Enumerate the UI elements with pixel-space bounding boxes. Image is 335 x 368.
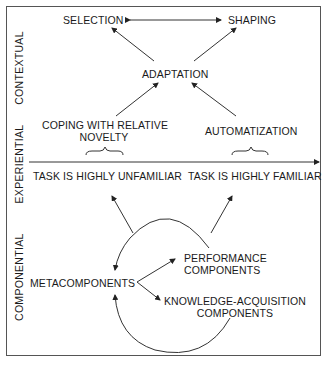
performance-label-line1: PERFORMANCE [184,252,267,264]
adaptation-label: ADAPTATION [142,68,209,80]
knowledge-label-line1: KNOWLEDGE-ACQUISITION [163,295,307,307]
knowledge-acquisition-label: KNOWLEDGE-ACQUISITION COMPONENTS [163,295,307,319]
novelty-to-adaptation-arrow [116,83,158,116]
unfamiliar-label: TASK IS HIGHLY UNFAMILIAR [33,170,182,182]
knowledge-label-line2: COMPONENTS [163,307,307,319]
automatization-to-adaptation-arrow [192,83,236,116]
meta-to-knowledge-arrow [137,282,160,300]
performance-label-line2: COMPONENTS [184,264,267,276]
novelty-brace [86,147,123,155]
metacomponents-label: METACOMPONENTS [30,277,135,289]
automatization-brace [232,147,268,155]
novelty-label-line1: COPING WITH RELATIVE [42,119,166,131]
automatization-label: AUTOMATIZATION [205,125,297,137]
meta-to-performance-arrow [137,259,175,282]
adaptation-to-selection-arrow [112,28,154,61]
shaping-label: SHAPING [228,14,276,26]
side-label-experiential: EXPERIENTIAL [13,122,25,206]
side-label-contextual: CONTEXTUAL [13,31,25,105]
novelty-label-line2: NOVELTY [42,131,166,143]
circle-to-familiar-arrow [211,196,232,233]
adaptation-to-shaping-arrow [194,28,236,61]
performance-label: PERFORMANCE COMPONENTS [184,252,267,276]
circle-to-unfamiliar-arrow [112,196,133,233]
side-label-componential: COMPONENTIAL [13,235,25,321]
familiar-label: TASK IS HIGHLY FAMILIAR [188,170,322,182]
selection-label: SELECTION [63,14,123,26]
novelty-label: COPING WITH RELATIVE NOVELTY [42,119,166,143]
